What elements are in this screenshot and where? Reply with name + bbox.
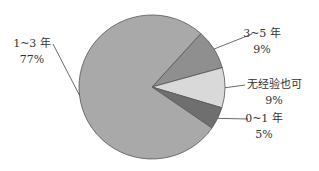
leader-line: [53, 44, 79, 95]
pie-chart: 3~5 年9%无经验也可9%0~1 年5%1~3 年77%: [0, 0, 319, 171]
slice-label: 无经验也可: [247, 77, 302, 91]
slice-value-label: 77%: [20, 53, 44, 66]
leader-line: [225, 85, 245, 88]
slice-value-label: 9%: [265, 94, 282, 107]
slice-value-label: 5%: [255, 128, 272, 141]
slice-value-label: 9%: [253, 43, 270, 56]
slice-label: 0~1 年: [245, 111, 283, 125]
pie-slices: [79, 15, 225, 159]
slice-label: 3~5 年: [243, 26, 281, 40]
leader-line: [218, 118, 248, 119]
slice-label: 1~3 年: [13, 36, 51, 50]
